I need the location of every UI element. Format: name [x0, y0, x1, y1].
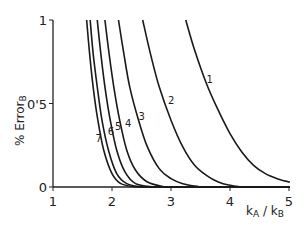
- curve-label-7: 7: [95, 133, 101, 144]
- x-tick-label: 5: [285, 194, 293, 209]
- y-ticks: 00'51: [27, 13, 53, 195]
- curve-label-5: 5: [115, 121, 121, 132]
- curve-label-3: 3: [139, 111, 145, 122]
- y-axis-label: % ErrorB: [13, 95, 28, 146]
- curve-label-4: 4: [125, 118, 131, 129]
- curve-2: [143, 20, 290, 187]
- x-tick-label: 1: [49, 194, 57, 209]
- y-tick-label: 1: [39, 13, 47, 28]
- x-tick-label: 2: [108, 194, 116, 209]
- curves: [87, 20, 290, 187]
- line-chart: 12345 00'51 1234567 kA / kB % ErrorB: [0, 0, 306, 238]
- curve-4: [105, 20, 290, 187]
- x-ticks: 12345: [49, 187, 293, 209]
- y-tick-label: 0'5: [27, 97, 47, 112]
- curve-label-6: 6: [108, 126, 114, 137]
- x-axis-label: kA / kB: [246, 204, 284, 219]
- curve-1: [186, 20, 290, 182]
- curve-label-1: 1: [206, 74, 212, 85]
- y-tick-label: 0: [39, 180, 47, 195]
- x-tick-label: 4: [226, 194, 234, 209]
- curve-label-2: 2: [168, 95, 174, 106]
- curve-3: [118, 20, 290, 187]
- x-tick-label: 3: [167, 194, 175, 209]
